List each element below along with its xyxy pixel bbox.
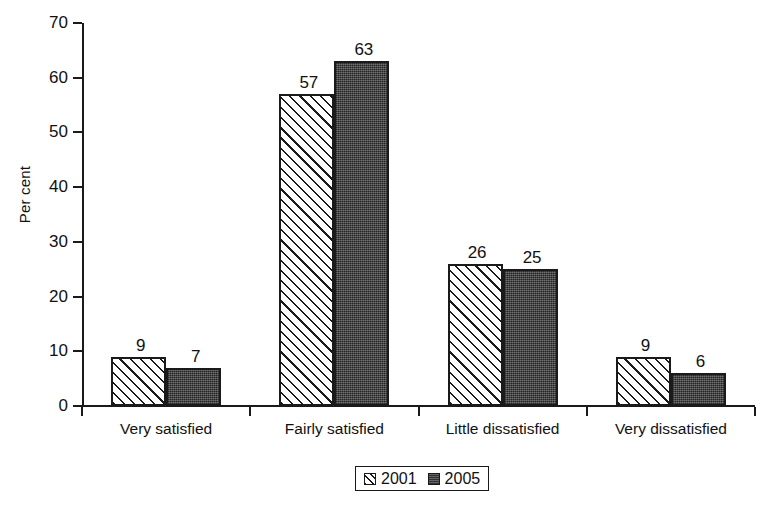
bar-value-label: 25 (505, 249, 560, 266)
y-tick-mark (73, 77, 82, 79)
bar-chart: Per cent 010203040506070 975763262596 Ve… (0, 0, 783, 518)
bar-group: 2625 (448, 23, 558, 406)
y-tick-mark (73, 131, 82, 133)
y-tick-mark (73, 350, 82, 352)
x-tick-mark (418, 407, 420, 416)
bar-value-label: 63 (336, 41, 391, 58)
y-tick-label: 70 (8, 14, 68, 31)
bar-2001-fairly-satisfied: 57 (279, 94, 334, 406)
y-tick-mark (73, 241, 82, 243)
bar-value-label: 57 (281, 74, 336, 91)
y-tick-label: 30 (8, 233, 68, 250)
plot-area: 975763262596 (82, 23, 755, 406)
bar-2001-little-dissatisfied: 26 (448, 264, 503, 406)
bar-2001-very-dissatisfied: 9 (616, 357, 671, 406)
y-tick-label: 60 (8, 69, 68, 86)
legend-item-2001: 2001 (364, 471, 417, 487)
bar-group: 5763 (279, 23, 389, 406)
y-tick-label: 50 (8, 123, 68, 140)
legend-label-2001: 2001 (381, 471, 417, 487)
y-tick-mark (73, 296, 82, 298)
bar-2005-fairly-satisfied: 63 (334, 61, 389, 406)
bar-value-label: 9 (618, 337, 673, 354)
x-tick-mark (249, 407, 251, 416)
x-axis-label-very-dissatisfied: Very dissatisfied (561, 420, 781, 438)
chart-legend: 2001 2005 (355, 466, 489, 491)
bar-value-label: 7 (168, 348, 223, 365)
y-axis-ticks: 010203040506070 (0, 0, 82, 518)
y-tick-label: 20 (8, 288, 68, 305)
y-tick-mark (73, 186, 82, 188)
bar-value-label: 6 (673, 353, 728, 370)
bar-value-label: 26 (450, 244, 505, 261)
x-tick-mark (586, 407, 588, 416)
y-tick-label: 0 (8, 397, 68, 414)
x-tick-mark (754, 407, 756, 416)
legend-swatch-icon-2005 (428, 473, 440, 485)
y-tick-mark (73, 22, 82, 24)
bar-value-label: 9 (113, 337, 168, 354)
bar-2001-very-satisfied: 9 (111, 357, 166, 406)
bar-2005-very-satisfied: 7 (166, 368, 221, 406)
y-tick-label: 10 (8, 342, 68, 359)
bar-2005-very-dissatisfied: 6 (671, 373, 726, 406)
legend-label-2005: 2005 (445, 471, 481, 487)
bar-group: 97 (111, 23, 221, 406)
y-tick-label: 40 (8, 178, 68, 195)
legend-swatch-icon-2001 (364, 473, 376, 485)
bar-2005-little-dissatisfied: 25 (503, 269, 558, 406)
bar-group: 96 (616, 23, 726, 406)
legend-item-2005: 2005 (428, 471, 481, 487)
x-tick-mark (81, 407, 83, 416)
